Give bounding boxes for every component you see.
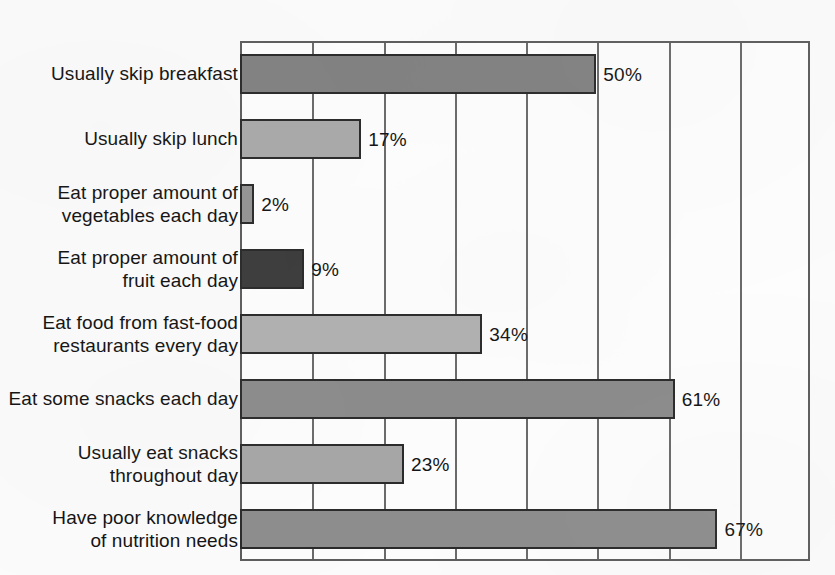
bar-value-label: 34% bbox=[489, 325, 528, 344]
bar bbox=[240, 249, 304, 289]
bar-value-label: 9% bbox=[311, 260, 339, 279]
gridline-60 bbox=[669, 43, 671, 559]
category-label: Eat proper amount of vegetables each day bbox=[58, 181, 239, 227]
category-label: Eat proper amount of fruit each day bbox=[58, 246, 239, 292]
bar-value-label: 2% bbox=[261, 195, 289, 214]
bar bbox=[240, 314, 482, 354]
bar-value-label: 50% bbox=[603, 65, 642, 84]
category-label: Usually skip lunch bbox=[84, 127, 238, 150]
category-label: Usually skip breakfast bbox=[51, 62, 238, 85]
bar-value-label: 23% bbox=[411, 455, 450, 474]
bar-value-label: 67% bbox=[724, 520, 763, 539]
gridline-30 bbox=[455, 43, 457, 559]
category-label: Usually eat snacks throughout day bbox=[78, 441, 238, 487]
bar-value-label: 61% bbox=[682, 390, 721, 409]
bar bbox=[240, 54, 596, 94]
bar bbox=[240, 119, 361, 159]
category-label: Have poor knowledge of nutrition needs bbox=[52, 506, 238, 552]
gridline-40 bbox=[526, 43, 528, 559]
bar-value-label: 17% bbox=[368, 130, 407, 149]
bar bbox=[240, 509, 717, 549]
gridline-50 bbox=[597, 43, 599, 559]
bar bbox=[240, 184, 254, 224]
category-label: Eat some snacks each day bbox=[9, 387, 238, 410]
gridline-70 bbox=[740, 43, 742, 559]
horizontal-bar-chart: 50%17%2%9%34%61%23%67% Usually skip brea… bbox=[0, 0, 835, 575]
bar bbox=[240, 444, 404, 484]
category-label: Eat food from fast-food restaurants ever… bbox=[42, 311, 238, 357]
bar bbox=[240, 379, 675, 419]
